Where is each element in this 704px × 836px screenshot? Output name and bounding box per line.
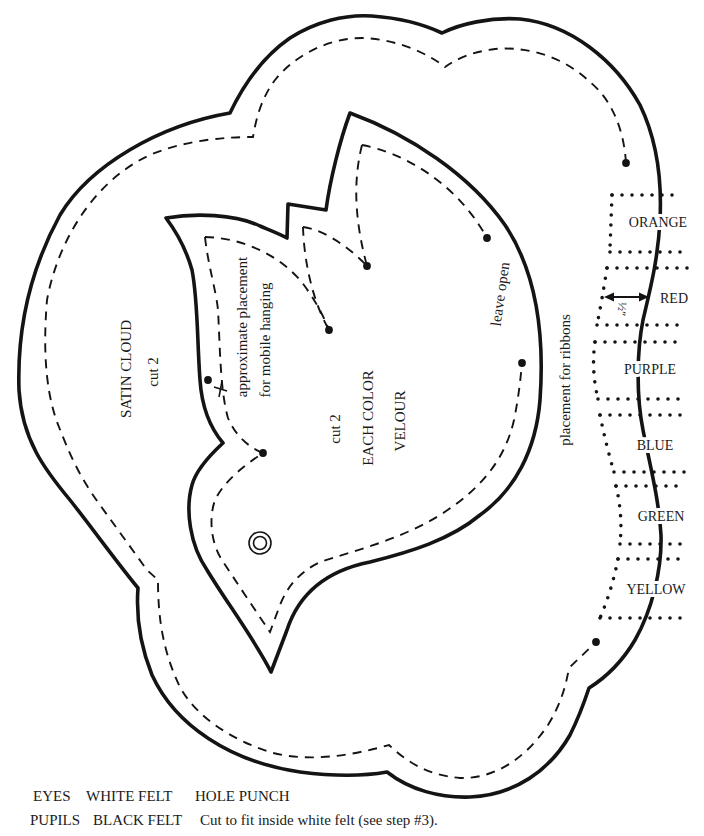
ribbon-color-red: RED: [660, 291, 688, 306]
hanging-note-line-2: for mobile hanging: [257, 282, 273, 397]
leave-open-start-dot: [483, 234, 491, 242]
neck-dot: [259, 449, 267, 457]
ribbon-color-purple: PURPLE: [624, 362, 676, 377]
leave-open-label: leave open: [488, 260, 513, 327]
tail-feather-dot: [325, 326, 333, 334]
hanging-mark-icon: [214, 381, 227, 397]
hanging-point-dot: [204, 376, 212, 384]
hanging-note-line-1: approximate placement: [234, 256, 250, 397]
materials-row-eyes: EYES WHITE FELT HOLE PUNCH: [33, 788, 290, 804]
materials-instruction: HOLE PUNCH: [195, 788, 290, 804]
materials-part: PUPILS: [30, 812, 80, 828]
materials-row-pupils: PUPILS BLACK FELT Cut to fit inside whit…: [30, 812, 438, 829]
materials-instruction: Cut to fit inside white felt (see step #…: [200, 812, 438, 829]
wing-tip-seam-right: [362, 145, 487, 238]
bird-color-label: EACH COLOR: [360, 370, 376, 465]
bird-fabric-label: VELOUR: [392, 391, 408, 452]
cloud-seam-end-dot: [592, 638, 600, 646]
wing-tip-seam-left: [356, 145, 367, 266]
ribbon-width-label: ½″: [614, 301, 629, 316]
cloud-cut-label: cut 2: [145, 357, 161, 387]
wing-feather-dot: [363, 262, 371, 270]
eye-icon: [249, 532, 271, 554]
materials-material: BLACK FELT: [93, 812, 182, 828]
leave-open-end-dot: [518, 359, 526, 367]
half-inch-arrow-icon: [604, 293, 649, 302]
materials-material: WHITE FELT: [86, 788, 173, 804]
cloud-name-label: SATIN CLOUD: [118, 320, 134, 418]
materials-part: EYES: [33, 788, 71, 804]
ribbon-color-green: GREEN: [638, 509, 685, 524]
ribbon-color-blue: BLUE: [637, 438, 674, 453]
ribbon-color-orange: ORANGE: [629, 215, 687, 230]
ribbon-color-yellow: YELLOW: [626, 582, 686, 597]
bird-cut-label: cut 2: [327, 414, 343, 444]
pattern-sheet: SATIN CLOUD cut 2 approximate placement …: [0, 0, 704, 836]
bird-cutting-line: [166, 113, 541, 672]
wing-feather-seam-top: [303, 227, 367, 266]
cloud-seam-start-dot: [622, 159, 630, 167]
wing-feather-seam-side: [303, 227, 329, 330]
ribbon-placement-label: placement for ribbons: [557, 314, 573, 446]
